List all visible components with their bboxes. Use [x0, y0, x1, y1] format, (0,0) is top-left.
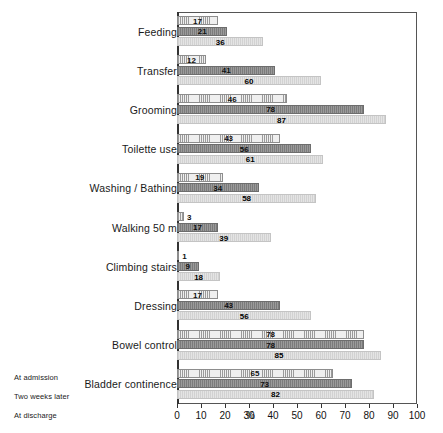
- bar-group: 60: [177, 76, 417, 85]
- bar-2: [177, 194, 316, 203]
- bar-1: [177, 183, 259, 192]
- x-axis-tick-label: 50: [291, 410, 302, 421]
- x-axis-tick-label: 70: [339, 410, 350, 421]
- chart-row: Bowel control787885: [0, 326, 443, 365]
- chart-row: Grooming467887: [0, 90, 443, 129]
- bar-value-label: 1: [182, 251, 186, 260]
- bar-group: 61: [177, 155, 417, 164]
- bar-1: [177, 262, 199, 271]
- bar-group: 43: [177, 301, 417, 310]
- row-bars: 467887: [177, 90, 417, 129]
- chart-row: Transfer124160: [0, 51, 443, 90]
- bar-2: [177, 390, 374, 399]
- bar-0: [177, 290, 218, 299]
- chart-row: Walking 50 m31739: [0, 208, 443, 247]
- category-label: Feeding: [138, 26, 177, 38]
- chart-row: Washing / Bathing193458: [0, 169, 443, 208]
- chart-row: Climbing stairs1918: [0, 247, 443, 286]
- bar-group: 39: [177, 233, 417, 242]
- bar-group: 12: [177, 55, 417, 64]
- x-axis-tick-label: 90: [387, 410, 398, 421]
- chart-row: Toilette use435661: [0, 130, 443, 169]
- chart-row: Feeding172136: [0, 12, 443, 51]
- category-label: Climbing stairs: [106, 261, 177, 273]
- bar-0: [177, 134, 280, 143]
- x-axis-tick-label: 0: [174, 410, 180, 421]
- bar-2: [177, 37, 263, 46]
- x-axis-tick-label: 100: [409, 410, 426, 421]
- x-axis-tick-label: 40: [267, 410, 278, 421]
- bar-0: [177, 94, 287, 103]
- x-axis-tick: [369, 404, 370, 408]
- bar-0: [177, 369, 333, 378]
- category-label: Grooming: [130, 104, 177, 116]
- row-bars: 193458: [177, 169, 417, 208]
- bar-group: 78: [177, 330, 417, 339]
- bar-group: 78: [177, 340, 417, 349]
- bar-0: [177, 251, 179, 260]
- bar-2: [177, 311, 311, 320]
- bar-group: 18: [177, 272, 417, 281]
- bar-1: [177, 223, 218, 232]
- bar-group: 46: [177, 94, 417, 103]
- bar-group: 17: [177, 290, 417, 299]
- bar-group: 3: [177, 212, 417, 221]
- row-bars: 174356: [177, 286, 417, 325]
- row-bars: 172136: [177, 12, 417, 51]
- bar-value-label: 3: [187, 212, 191, 221]
- row-bars: 787885: [177, 326, 417, 365]
- bar-group: 9: [177, 262, 417, 271]
- bar-group: 19: [177, 173, 417, 182]
- x-axis-tick: [297, 404, 298, 408]
- bar-2: [177, 351, 381, 360]
- row-bars: 657382: [177, 365, 417, 404]
- bar-group: 65: [177, 369, 417, 378]
- bar-1: [177, 105, 364, 114]
- x-axis-tick: [177, 404, 178, 408]
- bar-1: [177, 379, 352, 388]
- x-axis: 0102030405060708090100: [177, 404, 417, 432]
- bar-group: 21: [177, 27, 417, 36]
- bar-1: [177, 66, 275, 75]
- bar-2: [177, 76, 321, 85]
- bar-group: 1: [177, 251, 417, 260]
- bar-0: [177, 173, 223, 182]
- x-axis-tick: [201, 404, 202, 408]
- bar-group: 56: [177, 144, 417, 153]
- bar-group: 82: [177, 390, 417, 399]
- bar-group: 41: [177, 66, 417, 75]
- bar-1: [177, 301, 280, 310]
- bar-2: [177, 115, 386, 124]
- x-axis-tick: [273, 404, 274, 408]
- bar-group: 87: [177, 115, 417, 124]
- category-label: Washing / Bathing: [90, 182, 177, 194]
- x-axis-tick: [321, 404, 322, 408]
- legend-item-at-admission: At admission: [14, 368, 134, 387]
- x-axis-tick: [393, 404, 394, 408]
- row-bars: 1918: [177, 247, 417, 286]
- bar-group: 73: [177, 379, 417, 388]
- bar-group: 36: [177, 37, 417, 46]
- x-axis-tick: [345, 404, 346, 408]
- x-axis-tick-label: 60: [315, 410, 326, 421]
- legend-item-two-weeks-later: Two weeks later: [14, 387, 134, 406]
- x-axis-tick: [225, 404, 226, 408]
- category-label: Toilette use: [122, 143, 177, 155]
- bar-0: [177, 212, 184, 221]
- bar-group: 56: [177, 311, 417, 320]
- chart-legend: At admission Two weeks later At discharg…: [14, 368, 134, 425]
- bar-2: [177, 155, 323, 164]
- bar-group: 58: [177, 194, 417, 203]
- bar-1: [177, 340, 364, 349]
- x-axis-percent-label: %: [246, 410, 255, 421]
- bar-0: [177, 330, 364, 339]
- bar-group: 17: [177, 223, 417, 232]
- bar-0: [177, 16, 218, 25]
- category-label: Dressing: [134, 300, 177, 312]
- category-label: Bowel control: [112, 339, 177, 351]
- bar-chart-plot-area: Feeding172136Transfer124160Grooming46788…: [0, 12, 443, 404]
- bar-1: [177, 27, 227, 36]
- bar-0: [177, 55, 206, 64]
- bar-group: 43: [177, 134, 417, 143]
- bar-group: 34: [177, 183, 417, 192]
